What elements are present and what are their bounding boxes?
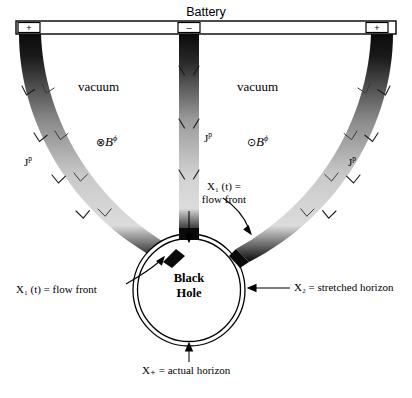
terminal-sign-left: + xyxy=(18,24,40,33)
current-channel-center xyxy=(179,34,199,237)
b-field-out-of-page: ⊙Bϕ xyxy=(247,135,268,148)
b-field-into-page: ⊗Bϕ xyxy=(96,135,117,148)
terminal-sign-right: + xyxy=(366,24,388,33)
current-label-right: Jp xyxy=(348,155,356,168)
vacuum-label-left: vacuum xyxy=(78,80,119,93)
odot-icon: ⊙ xyxy=(247,136,256,148)
figure-canvas: Battery + – + vacuum vacuum ⊗Bϕ ⊙Bϕ Jp J… xyxy=(0,0,412,398)
current-exponent-center: p xyxy=(208,130,212,139)
flow-front-top-annotation: X₁ (t) = flow front xyxy=(176,181,272,205)
current-exponent-left: p xyxy=(28,154,32,163)
battery-title: Battery xyxy=(0,6,412,19)
black-hole-label-line1: Black xyxy=(149,271,229,286)
vacuum-label-right: vacuum xyxy=(237,80,278,93)
b-field-exponent-left: ϕ xyxy=(113,134,117,143)
b-field-base-right: B xyxy=(256,134,264,149)
b-field-base-left: B xyxy=(105,134,113,149)
current-label-center: Jp xyxy=(204,131,212,144)
flow-front-top-line1: X₁ (t) = xyxy=(176,181,272,192)
otimes-icon: ⊗ xyxy=(96,136,105,148)
black-hole-label-line2: Hole xyxy=(149,286,229,301)
actual-horizon-annotation: X₊ = actual horizon xyxy=(142,365,230,376)
battery-bar xyxy=(16,21,396,34)
current-label-left: Jp xyxy=(24,155,32,168)
terminal-sign-center: – xyxy=(178,24,200,33)
black-hole-label: Black Hole xyxy=(149,271,229,301)
flow-front-left-annotation: X₁ (t) = flow front xyxy=(16,284,97,295)
flow-front-top-line2: flow front xyxy=(176,194,272,205)
current-exponent-right: p xyxy=(352,154,356,163)
b-field-exponent-right: ϕ xyxy=(264,134,268,143)
stretched-horizon-annotation: X₂ = stretched horizon xyxy=(294,282,394,293)
